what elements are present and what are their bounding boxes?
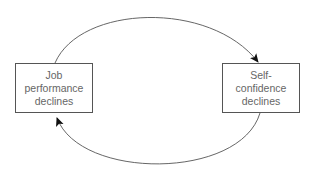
node-label-line: Job: [25, 69, 84, 82]
arrow-self-to-job: [57, 113, 260, 164]
node-label-line: confidence: [236, 82, 287, 95]
node-label-line: declines: [25, 95, 84, 108]
node-label-line: Self-: [236, 69, 287, 82]
arrow-job-to-self: [55, 17, 258, 63]
node-job-performance-declines: Job performance declines: [15, 63, 93, 113]
node-label-line: performance: [25, 82, 84, 95]
node-self-confidence-declines: Self- confidence declines: [222, 63, 300, 113]
node-label-line: declines: [236, 95, 287, 108]
